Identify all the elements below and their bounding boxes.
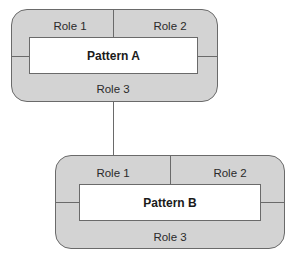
pattern-b-right-divider <box>260 202 285 203</box>
pattern-b-role-1: Role 1 <box>73 167 153 179</box>
pattern-a-role-3: Role 3 <box>73 83 153 95</box>
connector-line <box>113 102 114 156</box>
pattern-a-role-2: Role 2 <box>130 20 210 32</box>
pattern-b-role-divider <box>170 155 171 184</box>
pattern-a-right-divider <box>197 56 218 57</box>
pattern-a-role-divider <box>113 9 114 37</box>
pattern-a-box: Pattern A <box>29 37 198 74</box>
pattern-b-label: Pattern B <box>143 196 196 210</box>
pattern-a-left-divider <box>11 56 30 57</box>
pattern-b-role-2: Role 2 <box>190 167 270 179</box>
pattern-b-role-3: Role 3 <box>130 231 210 243</box>
pattern-a-label: Pattern A <box>87 49 140 63</box>
pattern-b-left-divider <box>55 202 80 203</box>
pattern-a-role-1: Role 1 <box>30 20 110 32</box>
pattern-b-box: Pattern B <box>79 184 261 221</box>
